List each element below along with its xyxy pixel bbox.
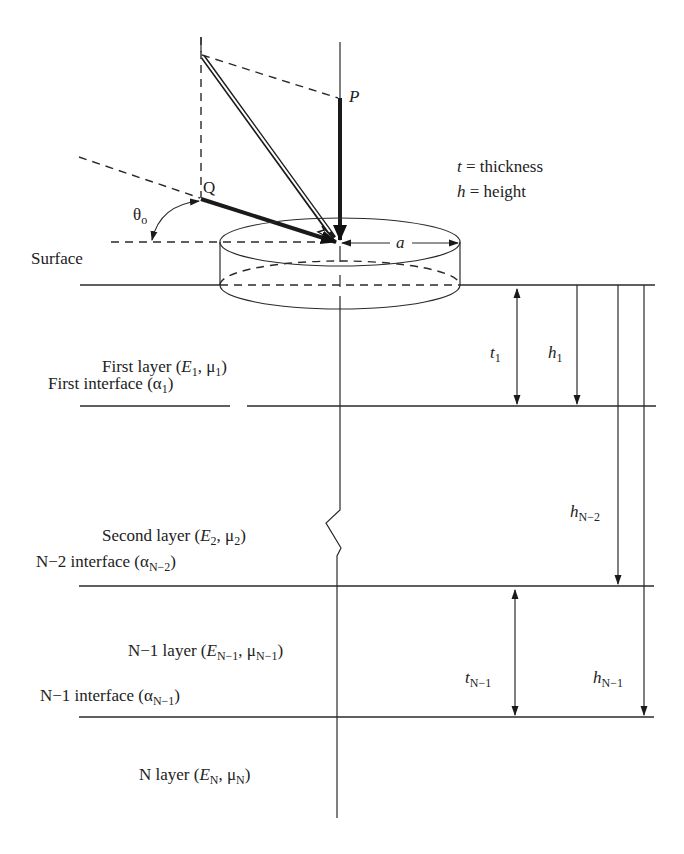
layer-label-n1: N−1 layer (EN−1, μN−1) [128, 641, 283, 663]
label-radius-a: a [396, 233, 405, 252]
label-h1: h1 [548, 343, 563, 365]
interface-label-1: First interface (α1) [48, 374, 173, 396]
dimension-labels: t1 h1 hN−2 tN−1 hN−1 [465, 343, 623, 690]
label-t1: t1 [490, 343, 501, 365]
load-geometry: P Q θo [79, 37, 359, 242]
label-tN1: tN−1 [465, 668, 491, 690]
surface-label: Surface [31, 249, 83, 268]
layer-label-n: N layer (EN, μN) [139, 765, 250, 787]
dimension-arrows [515, 285, 644, 715]
label-q: Q [203, 178, 215, 197]
incoming-dashed-line [79, 157, 200, 198]
legend-height: h = height [457, 182, 526, 201]
layer-label-2: Second layer (E2, μ2) [102, 526, 246, 548]
label-hN2: hN−2 [570, 502, 600, 524]
label-hN1: hN−1 [593, 668, 623, 690]
label-p: P [348, 87, 359, 106]
label-theta: θo [133, 205, 147, 227]
legend: t = thickness h = height [457, 157, 543, 201]
dashed-guide-to-p [202, 55, 338, 98]
interface-label-n1: N−1 interface (αN−1) [40, 686, 180, 708]
multilayer-diagram: P Q θo t = thickness h = height a Surfac… [0, 0, 684, 854]
interface-label-n2: N−2 interface (αN−2) [36, 552, 176, 574]
center-axis-with-break [326, 296, 341, 818]
q-load-arrow [201, 199, 336, 242]
resultant-double-arrow [203, 57, 336, 242]
layer-labels: First layer (E1, μ1) Second layer (E2, μ… [102, 357, 283, 787]
legend-thickness: t = thickness [457, 157, 543, 176]
theta-angle-arc [152, 201, 199, 240]
